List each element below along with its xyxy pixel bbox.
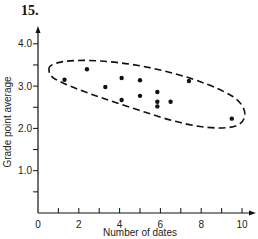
data-point: [119, 98, 123, 102]
y-tick-label: 2.0: [18, 123, 32, 134]
data-point: [155, 104, 159, 108]
data-point: [187, 79, 191, 83]
data-point: [62, 78, 66, 82]
scatter-plot: 02468101.02.03.04.0 Number of dates Grad…: [0, 0, 258, 239]
data-point: [119, 76, 123, 80]
x-tick-label: 0: [35, 219, 41, 230]
y-axis-arrow-icon: [36, 26, 41, 33]
x-axis-label: Number of dates: [103, 227, 177, 238]
y-axis-label: Grade point average: [2, 76, 13, 168]
x-tick-label: 10: [236, 219, 248, 230]
dashed-ellipse: [49, 60, 245, 128]
data-point: [85, 67, 89, 71]
y-tick-label: 1.0: [18, 165, 32, 176]
data-point: [168, 100, 172, 104]
data-point: [155, 90, 159, 94]
x-axis-arrow-icon: [249, 211, 256, 216]
data-point: [103, 85, 107, 89]
y-tick-label: 4.0: [18, 38, 32, 49]
tick-labels: 02468101.02.03.04.0: [18, 38, 248, 230]
axes: [33, 26, 256, 216]
y-tick-label: 3.0: [18, 81, 32, 92]
data-point: [138, 94, 142, 98]
data-point: [155, 100, 159, 104]
data-point: [138, 78, 142, 82]
x-tick-label: 8: [198, 219, 204, 230]
x-tick-label: 2: [76, 219, 82, 230]
data-point: [230, 116, 234, 120]
